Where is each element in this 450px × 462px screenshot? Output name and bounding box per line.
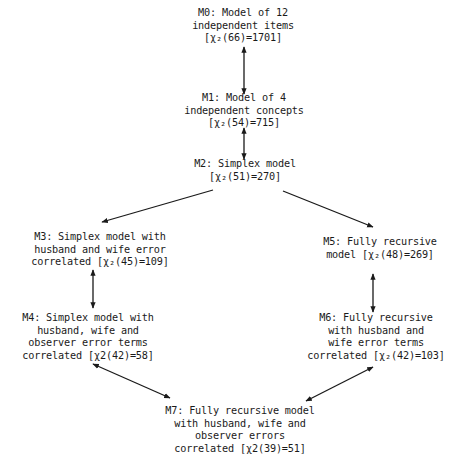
node-m4-line: husband, wife and (22, 325, 154, 338)
node-m4: M4: Simplex model with husband, wife and… (22, 312, 154, 362)
edge-m6-m7 (306, 367, 373, 401)
node-m7-line: observer errors (165, 430, 315, 443)
node-m6-line: with husband and (307, 325, 445, 338)
edge-m2-m3 (102, 190, 213, 222)
node-m5: M5: Fully recursive model [χ₂(48)=269] (323, 236, 437, 261)
node-m5-line: model [χ₂(48)=269] (323, 249, 437, 262)
node-m6-line: M6: Fully recursive (307, 312, 445, 325)
node-m4-line: M4: Simplex model with (22, 312, 154, 325)
node-m1-line: [χ₂(54)=715] (184, 117, 304, 130)
node-m3-line: correlated [χ₂(45)=109] (31, 256, 169, 269)
node-m1-line: M1: Model of 4 (184, 92, 304, 105)
node-m0-line: M0: Model of 12 (192, 7, 294, 20)
node-m3-line: husband and wife error (31, 244, 169, 257)
node-m0: M0: Model of 12 independent items [χ₂(66… (192, 7, 294, 45)
node-m6-line: wife error terms (307, 337, 445, 350)
edge-m2-m5 (283, 191, 373, 227)
node-m6-line: correlated [χ₂(42)=103] (307, 350, 445, 363)
node-m2: M2: Simplex model [χ₂(51)=270] (194, 158, 296, 183)
node-m4-line: correlated [χ2(42)=58] (22, 350, 154, 363)
node-m7: M7: Fully recursive model with husband, … (165, 405, 315, 455)
node-m0-line: independent items (192, 20, 294, 33)
node-m4-line: observer error terms (22, 337, 154, 350)
node-m5-line: M5: Fully recursive (323, 236, 437, 249)
node-m7-line: correlated [χ2(39)=51] (165, 443, 315, 456)
node-m2-line: M2: Simplex model (194, 158, 296, 171)
node-m1: M1: Model of 4 independent concepts [χ₂(… (184, 92, 304, 130)
node-m6: M6: Fully recursive with husband and wif… (307, 312, 445, 362)
node-m7-line: with husband, wife and (165, 418, 315, 431)
node-m1-line: independent concepts (184, 105, 304, 118)
node-m0-line: [χ₂(66)=1701] (192, 32, 294, 45)
node-m7-line: M7: Fully recursive model (165, 405, 315, 418)
node-m3-line: M3: Simplex model with (31, 231, 169, 244)
node-m2-line: [χ₂(51)=270] (194, 171, 296, 184)
edge-m4-m7 (93, 364, 170, 398)
node-m3: M3: Simplex model with husband and wife … (31, 231, 169, 269)
